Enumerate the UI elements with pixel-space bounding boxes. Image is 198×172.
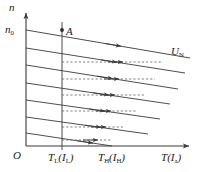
figure-canvas: n n0 A UN O TL(IL) TH(IH) T(Ia) [0, 0, 198, 172]
origin-label: O [13, 150, 21, 161]
point-a-marker [60, 28, 64, 32]
n0-label: n0 [5, 24, 14, 35]
flow-arrow [97, 76, 113, 79]
x-axis-label: T(Ia) [161, 152, 181, 163]
characteristic-lines [26, 30, 190, 146]
flow-arrow [77, 141, 93, 143]
point-a-label: A [66, 26, 73, 37]
y-axis-label: n [9, 2, 15, 13]
diagram-svg [0, 0, 198, 172]
th-axis-label: TH(IH) [98, 152, 125, 163]
solid-line-arrowheads [77, 44, 121, 144]
axis-group [26, 13, 189, 146]
un-label: UN [171, 46, 184, 57]
tl-axis-label: TL(IL) [48, 152, 73, 163]
characteristic-line [26, 133, 112, 146]
transition-arrowheads [83, 62, 123, 140]
flow-arrow [105, 44, 121, 47]
